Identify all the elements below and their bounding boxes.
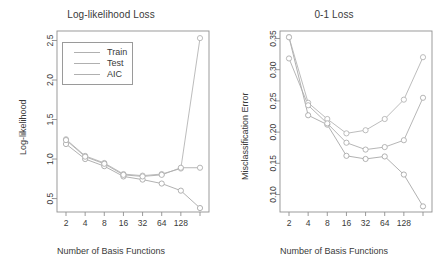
legend-swatch-train — [74, 52, 100, 53]
svg-text:64: 64 — [157, 218, 167, 228]
legend-label-aic: AIC — [107, 69, 122, 80]
svg-text:8: 8 — [102, 218, 107, 228]
panel-zero-one-loss: 0-1 Loss Number of Basis Functions Miscl… — [223, 0, 445, 265]
legend-left: Train Test AIC — [62, 42, 133, 85]
svg-text:0.25: 0.25 — [268, 92, 278, 109]
svg-text:1.5: 1.5 — [45, 113, 55, 125]
svg-text:4: 4 — [306, 218, 311, 228]
svg-text:0.10: 0.10 — [268, 186, 278, 203]
svg-text:2.5: 2.5 — [45, 34, 55, 46]
plot-area-right: 0.100.150.200.250.300.35248163264128 — [223, 0, 445, 265]
svg-text:128: 128 — [174, 218, 188, 228]
svg-text:0.35: 0.35 — [268, 30, 278, 47]
svg-text:16: 16 — [342, 218, 352, 228]
svg-text:0.30: 0.30 — [268, 61, 278, 78]
svg-text:2: 2 — [287, 218, 292, 228]
svg-text:0.15: 0.15 — [268, 155, 278, 172]
panel-log-likelihood-loss: Log-likelihood Loss Number of Basis Func… — [0, 0, 222, 265]
svg-text:0.20: 0.20 — [268, 124, 278, 141]
svg-text:128: 128 — [397, 218, 411, 228]
svg-text:32: 32 — [138, 218, 148, 228]
legend-item-train: Train — [68, 47, 127, 58]
plot-area-left: 0.51.01.52.02.5248163264128 — [0, 0, 222, 265]
svg-text:2: 2 — [64, 218, 69, 228]
svg-text:8: 8 — [325, 218, 330, 228]
svg-text:2.0: 2.0 — [45, 74, 55, 86]
figure-panel-pair: Log-likelihood Loss Number of Basis Func… — [0, 0, 445, 265]
svg-text:0.5: 0.5 — [45, 192, 55, 204]
legend-label-train: Train — [107, 47, 127, 58]
plot-svg-right: 0.100.150.200.250.300.35248163264128 — [223, 0, 445, 265]
legend-label-test: Test — [107, 58, 124, 69]
legend-swatch-test — [74, 63, 100, 64]
plot-svg-left: 0.51.01.52.02.5248163264128 — [0, 0, 222, 265]
svg-text:1.0: 1.0 — [45, 153, 55, 165]
svg-text:32: 32 — [361, 218, 371, 228]
svg-text:64: 64 — [380, 218, 390, 228]
legend-swatch-aic — [74, 74, 100, 75]
svg-text:16: 16 — [119, 218, 129, 228]
legend-item-aic: AIC — [68, 69, 127, 80]
svg-text:4: 4 — [83, 218, 88, 228]
legend-item-test: Test — [68, 58, 127, 69]
